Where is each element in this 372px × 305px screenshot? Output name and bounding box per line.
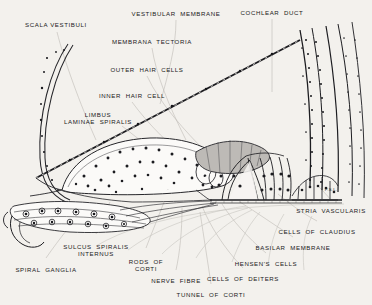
label-tunnel-of-corti: TUNNEL OF CORTI: [177, 291, 246, 298]
diagram-canvas: P.S.L. SCALA VESTIBULIVESTIBULAR MEMBRAN…: [0, 0, 372, 305]
label-sulcus-spiralis-internus: SULCUS SPIRALIS INTERNUS: [63, 243, 128, 258]
stria-vascularis: [300, 26, 338, 192]
label-vestibular-membrane: VESTIBULAR MEMBRANE: [132, 10, 221, 17]
label-cells-of-claudius: CELLS OF CLAUDIUS: [278, 228, 355, 235]
label-rods-of-corti: RODS OF CORTI: [129, 258, 163, 273]
label-limbus-laminae-spiralis: LIMBUS LAMINAE SPIRALIS: [64, 111, 132, 126]
label-spiral-ganglia: SPIRAL GANGLIA: [15, 266, 76, 273]
label-membrana-tectoria: MEMBRANA TECTORIA: [112, 38, 192, 45]
label-scala-vestibuli: SCALA VESTIBULI: [25, 21, 87, 28]
label-stria-vascularis: STRIA VASCULARIS: [296, 207, 366, 214]
label-outer-hair-cells: OUTER HAIR CELLS: [110, 66, 183, 73]
label-basilar-membrane: BASILAR MEMBRANE: [256, 244, 331, 251]
artist-inscription: P.S.L.: [325, 187, 338, 192]
spiral-ligament: [338, 22, 364, 198]
label-nerve-fibre: NERVE FIBRE: [151, 277, 201, 284]
label-cells-of-deiters: CELLS OF DEITERS: [207, 275, 279, 282]
cochlea-cross-section-illustration: P.S.L.: [0, 0, 372, 305]
basilar-membrane: [210, 200, 342, 203]
label-hensens-cells: HENSEN'S CELLS: [235, 260, 298, 267]
label-cochlear-duct: COCHLEAR DUCT: [241, 9, 304, 16]
label-inner-hair-cell: INNER HAIR CELL: [99, 92, 165, 99]
